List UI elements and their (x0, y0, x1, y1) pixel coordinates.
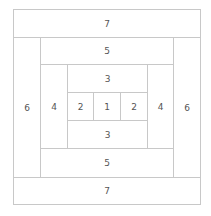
block-5: 5 (40, 148, 174, 178)
block-6: 6 (13, 37, 41, 178)
block-6: 6 (173, 37, 201, 178)
block-3: 3 (67, 120, 148, 149)
block-1: 1 (93, 92, 121, 121)
block-4: 4 (40, 64, 68, 149)
block-2: 2 (67, 92, 94, 121)
block-3: 3 (67, 64, 148, 93)
block-7: 7 (13, 9, 201, 38)
block-2: 2 (120, 92, 148, 121)
block-4: 4 (147, 64, 174, 149)
block-7: 7 (13, 177, 201, 205)
block-5: 5 (40, 37, 174, 65)
